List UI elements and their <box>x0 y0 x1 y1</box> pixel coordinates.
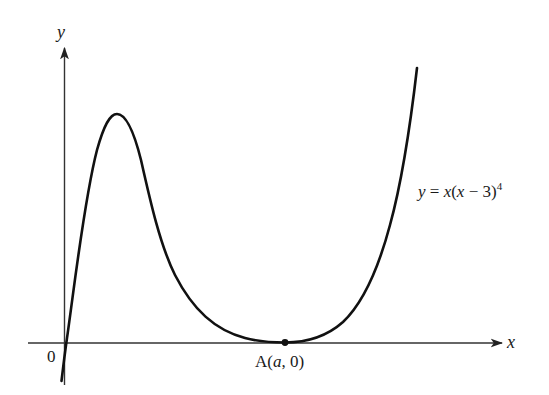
graph-canvas: y x 0 A(a, 0) y = x(x − 3)4 <box>0 0 549 395</box>
equation-label: y = x(x − 3)4 <box>416 180 503 201</box>
curve-y-equals-x-x-minus-3-to-the-4 <box>62 68 418 381</box>
y-axis-label: y <box>55 22 65 42</box>
origin-label: 0 <box>47 347 56 366</box>
point-a-label: A(a, 0) <box>255 352 304 371</box>
point-a-marker <box>282 339 289 346</box>
x-axis-label: x <box>506 332 515 352</box>
